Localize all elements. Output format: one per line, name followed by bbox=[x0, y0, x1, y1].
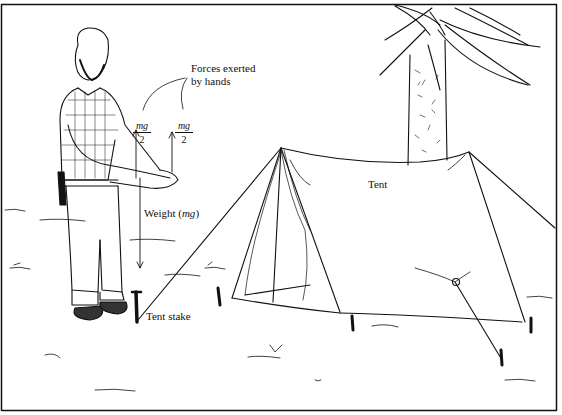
illustration-canvas: Forces exerted by hands mg 2 mg 2 Weight… bbox=[0, 0, 562, 415]
line-drawing bbox=[0, 0, 562, 415]
fraction-numerator: mg bbox=[133, 120, 151, 133]
fraction-denominator: 2 bbox=[175, 133, 193, 145]
fraction-right: mg 2 bbox=[175, 120, 193, 145]
fraction-left: mg 2 bbox=[133, 120, 151, 145]
fraction-numerator: mg bbox=[175, 120, 193, 133]
ground-marks bbox=[5, 209, 552, 391]
forces-label-line1: Forces exerted bbox=[191, 62, 255, 74]
weight-label: Weight (mg) bbox=[144, 207, 199, 219]
weight-label-close: ) bbox=[195, 207, 199, 219]
forces-label-line2: by hands bbox=[191, 75, 230, 87]
tree-icon bbox=[380, 5, 540, 165]
weight-symbol: mg bbox=[182, 207, 195, 219]
tent-label: Tent bbox=[368, 178, 387, 190]
tent-stake-label: Tent stake bbox=[146, 310, 191, 322]
man-figure-icon bbox=[58, 28, 178, 320]
tent-stake-icon bbox=[136, 292, 137, 322]
fraction-denominator: 2 bbox=[133, 133, 151, 145]
tent-icon bbox=[138, 148, 555, 365]
weight-label-text: Weight ( bbox=[144, 207, 182, 219]
frame-border bbox=[2, 5, 557, 411]
